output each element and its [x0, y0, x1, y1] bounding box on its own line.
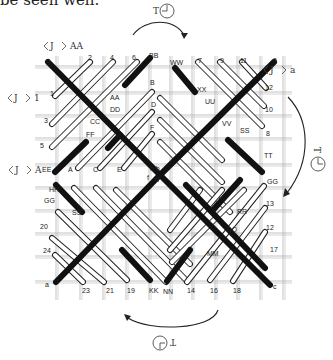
- strand-label: 8: [266, 130, 270, 137]
- strand-label: F: [150, 124, 154, 131]
- strand-label: f: [147, 174, 149, 181]
- strand-label: 14: [187, 287, 195, 294]
- strand-label: E: [117, 166, 122, 173]
- rotate-arrow-bottom: T: [124, 310, 218, 350]
- svg-text:J: J: [49, 41, 54, 51]
- strand-label: BB: [149, 52, 159, 59]
- side-label-1: J1: [8, 93, 40, 103]
- strand-label: 11: [240, 57, 247, 64]
- svg-text:J: J: [13, 93, 18, 103]
- strand-label: FF: [86, 131, 95, 138]
- strand-label: WW: [170, 59, 184, 66]
- strand-label: DD: [110, 106, 120, 113]
- strand-label: GG: [267, 178, 278, 185]
- strand-label: 1: [50, 90, 54, 97]
- bracket-icon: [9, 166, 31, 174]
- strand-label: MM: [207, 250, 219, 257]
- svg-text:J: J: [14, 165, 19, 175]
- svg-text:A: A: [34, 165, 42, 175]
- strand-label: 24: [43, 247, 51, 254]
- strand-label: 12: [266, 224, 274, 231]
- rotate-arrow-right: T: [283, 97, 325, 197]
- bracket-icon: [8, 94, 30, 102]
- strand-label: EE: [42, 166, 52, 173]
- strand-label: B: [150, 79, 155, 86]
- strand-label: CC: [90, 118, 100, 125]
- strand-label: 21: [106, 287, 114, 294]
- strand-label: 18: [233, 287, 241, 294]
- strand-label: 13: [266, 200, 274, 207]
- strand-label: 5: [40, 142, 44, 149]
- side-label-AA: JAA: [44, 41, 83, 51]
- svg-text:a: a: [290, 65, 296, 75]
- strand-label: 9: [220, 57, 224, 64]
- strand-label: 10: [265, 106, 273, 113]
- strand-label: GG: [44, 197, 55, 204]
- strand-label: c: [273, 283, 277, 290]
- strand-label: 7: [198, 57, 202, 64]
- strand-label: AA: [110, 94, 120, 101]
- strand-label: C: [93, 166, 98, 173]
- weave-diagram: g246BBWW7911a1AAXX123CCDDBUUVV105FFDSS8F…: [0, 0, 333, 360]
- strand-label: QQ: [226, 226, 237, 234]
- rotation-label-bottom: T: [170, 337, 176, 347]
- svg-text:1: 1: [34, 93, 40, 103]
- strand-label: NN: [163, 288, 173, 295]
- strand-label: XX: [197, 86, 207, 93]
- strand-label: h b: [150, 165, 160, 172]
- strand-label: d: [155, 176, 159, 183]
- strand-label: 6: [132, 54, 136, 61]
- strand-label: 4: [110, 54, 114, 61]
- black-strand: [228, 140, 262, 172]
- rotation-label-right: T: [312, 147, 322, 153]
- strand-label: A: [68, 166, 73, 173]
- svg-text:J: J: [269, 65, 274, 75]
- white-strand-fill: [220, 62, 264, 106]
- bracket-icon: [44, 42, 66, 50]
- strand-label: 23: [82, 287, 90, 294]
- strand-label: KK: [149, 287, 159, 294]
- strand-label: 19: [127, 287, 135, 294]
- strand-label: TT: [264, 152, 273, 159]
- strand-label: 3: [44, 117, 48, 124]
- strand-label: 2: [88, 54, 92, 61]
- strand-label: 16: [210, 287, 218, 294]
- strand-label: 12: [265, 84, 273, 91]
- rotation-label-top: T: [153, 6, 159, 16]
- side-label-A: JA: [9, 165, 42, 175]
- rotate-arrow-top: T: [133, 4, 188, 39]
- strand-label: RR: [237, 208, 247, 215]
- strand-label: 20: [40, 223, 48, 230]
- strand-label: a: [45, 281, 49, 288]
- strand-label: HH: [49, 186, 59, 193]
- strand-label: g: [46, 57, 50, 65]
- strand-label: SS: [72, 209, 82, 216]
- strand-label: a: [273, 56, 277, 63]
- strand-label: VV: [222, 120, 232, 127]
- strand-label: D: [151, 101, 156, 108]
- strand-label: SS: [240, 127, 250, 134]
- svg-text:AA: AA: [69, 41, 83, 51]
- strand-label: 17: [270, 246, 278, 253]
- strand-label: UU: [205, 98, 215, 105]
